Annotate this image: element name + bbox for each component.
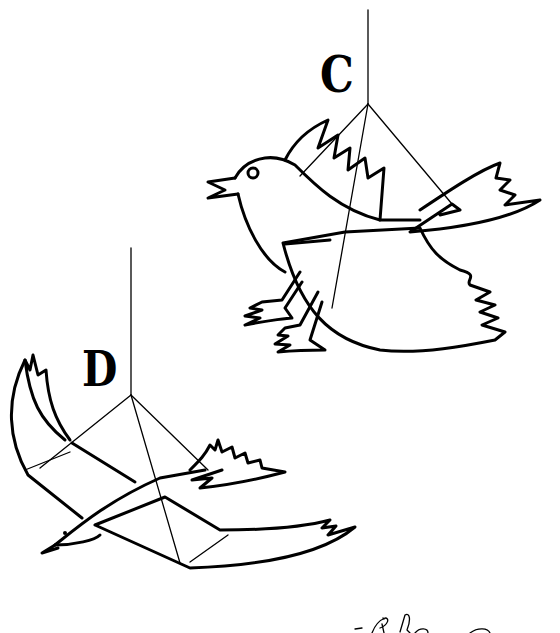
beak-c xyxy=(208,178,238,198)
belly-c xyxy=(238,194,285,272)
illustration-canvas xyxy=(0,0,560,633)
beak-d xyxy=(42,545,58,553)
figure-label-c: C xyxy=(320,50,354,100)
front-wing-c xyxy=(283,228,505,351)
tail-d xyxy=(190,440,285,488)
eye-c xyxy=(248,168,258,178)
right-wing-d xyxy=(95,497,355,568)
eye-d xyxy=(63,531,67,535)
bird-mobile-c xyxy=(208,10,540,352)
figure-label-d: D xyxy=(82,345,117,393)
handwriting xyxy=(355,614,490,633)
body-c xyxy=(235,158,420,220)
frame-bar-d1 xyxy=(25,452,70,470)
left-wing-d xyxy=(25,355,70,440)
wing-edge-d xyxy=(72,443,135,482)
frame-bar-d2 xyxy=(190,535,228,562)
tail-c xyxy=(410,163,540,232)
